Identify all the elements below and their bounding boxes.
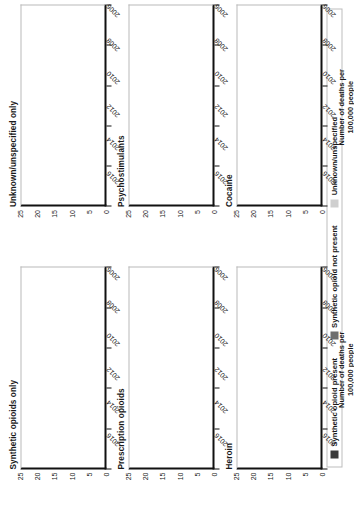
bar-row [272,268,279,468]
value-axis-tick-label: 20 [34,210,41,218]
axis-tick-mark [214,387,219,388]
axis-tick-mark [214,267,219,268]
bar-row [292,268,299,468]
value-axis-tick-label: 20 [34,472,41,480]
bar-row [237,5,244,205]
bar-row [76,5,83,205]
value-axis-title-line2: 100,000 people [346,270,354,470]
category-axis-tick-label: 2014 [320,398,336,414]
panel-synthetic-opioids-only: Synthetic opioids only051015202520062008… [8,267,106,504]
plot-area: 200620082010201220142016 [128,267,214,470]
value-axis: 0510152025 [128,207,214,241]
bar-row [62,268,69,468]
bar-group [21,5,104,205]
bar-row [184,5,191,205]
bar-row [21,268,28,468]
axis-tick-mark [106,428,111,429]
bar-row [42,5,49,205]
bar-row [265,268,272,468]
bar-row [143,5,150,205]
bar-row [157,268,164,468]
value-axis-tick-label: 0 [211,210,218,214]
value-axis-tick-label: 20 [142,472,149,480]
bar-row [129,268,136,468]
value-axis-tick-label: 25 [17,472,24,480]
value-axis-tick-label: 20 [250,210,257,218]
bar-row [28,5,35,205]
value-axis-tick-label: 20 [250,472,257,480]
panel-grid: Synthetic opioids only051015202520062008… [0,0,324,507]
axis-tick-mark [322,165,327,166]
value-axis-tick-label: 15 [51,210,58,218]
bar-row [56,5,63,205]
plot-row: 0510152025200620082010201220142016Number… [236,4,322,241]
axis-tick-mark [106,468,111,469]
axis-tick-mark [322,347,327,348]
category-axis-tick-label: 2016 [320,169,336,185]
value-axis-tick-label: 15 [267,210,274,218]
value-axis: 0510152025 [236,469,322,503]
value-axis-tick-label: 15 [159,210,166,218]
axis-tick-mark [214,85,219,86]
axis-tick-mark [214,165,219,166]
axis-tick-mark [322,206,327,207]
bar-row [76,268,83,468]
value-axis: 0510152025 [128,469,214,503]
axis-tick-mark [322,4,327,5]
axis-tick-mark [106,4,111,5]
axis-tick-mark [214,428,219,429]
axis-tick-mark [106,44,111,45]
bar-row [164,268,171,468]
axis-tick-mark [322,267,327,268]
plot-area: 200620082010201220142016 [20,267,106,470]
value-axis-tick-label: 0 [103,210,110,214]
value-axis-tick-label: 10 [68,210,75,218]
bar-row [136,5,143,205]
axis-tick-mark [322,468,327,469]
panel-title: Psychostimulants [116,4,126,207]
plot-area: 200620082010201220142016Number of deaths… [236,267,322,470]
axis-tick-mark [322,428,327,429]
plot-row: 0510152025200620082010201220142016 [20,267,106,504]
value-axis-title-line1: Number of deaths per [337,7,346,207]
bar-row [49,5,56,205]
bar-row [143,268,150,468]
axis-tick-mark [214,206,219,207]
axis-tick-mark [322,387,327,388]
bar-row [157,5,164,205]
bar-row [205,5,212,205]
value-axis-tick-label: 25 [125,210,132,218]
axis-tick-mark [106,307,111,308]
bar-row [150,268,157,468]
panel-title: Heroin [224,267,234,470]
bar-row [83,5,90,205]
category-axis-tick-label: 2016 [320,432,336,448]
value-axis-tick-label: 10 [176,472,183,480]
value-axis-tick-label: 25 [233,472,240,480]
bar-row [285,5,292,205]
axis-tick-mark [322,307,327,308]
bar-row [244,5,251,205]
axis-tick-mark [214,468,219,469]
bar-row [90,5,97,205]
bar-row [306,5,313,205]
bar-row [170,268,177,468]
value-axis-tick-label: 15 [267,472,274,480]
value-axis-title-line1: Number of deaths per [337,270,346,470]
category-axis-tick-label: 2010 [320,332,336,348]
bar-row [28,268,35,468]
panel-cocaine: Cocaine051015202520062008201020122014201… [224,4,322,241]
value-axis-tick-label: 5 [85,210,92,214]
value-axis-tick-label: 5 [301,210,308,214]
value-axis-tick-label: 10 [284,210,291,218]
axis-tick-mark [106,206,111,207]
axis-tick-mark [214,44,219,45]
bar-row [150,5,157,205]
axis-tick-mark [106,125,111,126]
plot-area: 200620082010201220142016Number of deaths… [236,4,322,207]
bar-row [251,268,258,468]
bar-row [198,5,205,205]
axis-tick-mark [214,347,219,348]
bar-row [164,5,171,205]
